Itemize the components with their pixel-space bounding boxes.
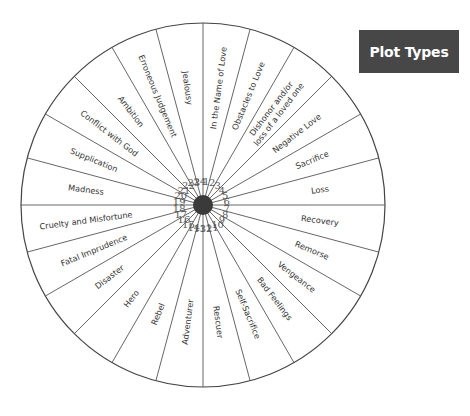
sector-label-text: Recovery [301, 213, 340, 228]
wheel-hub [193, 195, 213, 215]
spoke-line [156, 213, 201, 381]
sector-label-text: Jealousy [180, 69, 195, 105]
spoke-line [74, 76, 197, 199]
sector-label: Vengeance [276, 259, 318, 294]
sector-label: Recovery [301, 213, 340, 228]
sector-label: Hero [121, 288, 141, 309]
sector-label: Rebel [149, 302, 167, 327]
sector-label-text: Bad Feelings [255, 275, 295, 322]
sector-label: Remorse [293, 239, 330, 262]
sector-label-text: Rebel [149, 302, 167, 327]
sector-label-text: Madness [67, 182, 104, 197]
sector-label: Sacrifice [294, 149, 330, 172]
spoke-line [209, 76, 332, 199]
spoke-line [112, 47, 199, 198]
sector-label-text: Supplication [69, 146, 120, 175]
sector-label-text: Cruelty and Misfortune [39, 209, 133, 231]
sector-label: Adventurer [180, 298, 196, 345]
sector-number: 24 [194, 176, 207, 187]
spoke-line [209, 211, 332, 334]
sector-label-text: Remorse [293, 239, 330, 262]
sector-label: Rescuer [211, 305, 225, 339]
sector-label: Loss [310, 183, 329, 195]
sector-label: Madness [67, 182, 104, 197]
sector-label-text: In the Name of Love [208, 46, 229, 129]
spoke-line [74, 211, 197, 334]
sector-label-text: Hero [121, 288, 141, 309]
sector-label-text: Sacrifice [294, 149, 330, 172]
sector-label: Supplication [69, 146, 120, 175]
sector-label-text: Adventurer [180, 298, 196, 345]
spoke-line [207, 212, 294, 363]
sector-label: Bad Feelings [255, 275, 295, 322]
sector-label: In the Name of Love [208, 46, 229, 129]
sector-label: Self-Sacrifice [233, 288, 263, 341]
sector-label-text: Self-Sacrifice [233, 288, 263, 341]
sector-label: Jealousy [180, 69, 195, 105]
sector-label: Cruelty and Misfortune [39, 209, 133, 231]
plot-types-wheel: In the Name of LoveObstacles to LoveDish… [0, 0, 470, 416]
sector-label-text: Vengeance [276, 259, 318, 294]
sector-label-text: Rescuer [211, 305, 225, 339]
sector-label-text: Loss [310, 183, 329, 195]
